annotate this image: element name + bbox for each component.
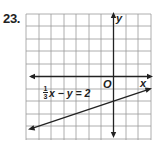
origin-label: O bbox=[103, 78, 112, 90]
equation-label: 1 3 x − y = 2 bbox=[43, 85, 90, 100]
fraction-numerator: 1 bbox=[44, 85, 48, 92]
x-axis bbox=[29, 74, 153, 79]
y-axis-label: y bbox=[115, 12, 123, 24]
equation-rest: x − y = 2 bbox=[49, 87, 90, 99]
fraction: 1 3 bbox=[43, 85, 48, 100]
y-axis bbox=[111, 12, 116, 138]
coordinate-graph: y x O bbox=[0, 0, 156, 151]
fraction-denominator: 3 bbox=[44, 93, 48, 100]
x-axis-label: x bbox=[139, 77, 147, 89]
